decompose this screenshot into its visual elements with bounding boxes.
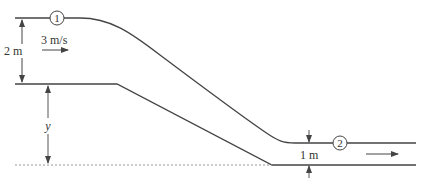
depth-2-label: 1 m <box>300 148 319 162</box>
velocity-1-indicator: 3 m/s <box>41 33 68 50</box>
depth-2-dimension: 1 m <box>300 130 319 178</box>
free-surface-line <box>15 18 416 143</box>
flow-diagram: 1 2 2 m 3 m/s y 1 m <box>0 0 426 189</box>
station-2-label: 2 <box>337 137 343 149</box>
height-y-label: y <box>44 119 51 133</box>
depth-1-dimension: 2 m <box>4 20 23 82</box>
depth-1-label: 2 m <box>4 44 23 58</box>
station-2-marker: 2 <box>333 136 347 150</box>
station-1-marker: 1 <box>50 11 64 25</box>
station-1-label: 1 <box>54 12 60 24</box>
velocity-1-label: 3 m/s <box>41 33 68 47</box>
height-y-dimension: y <box>44 86 51 163</box>
